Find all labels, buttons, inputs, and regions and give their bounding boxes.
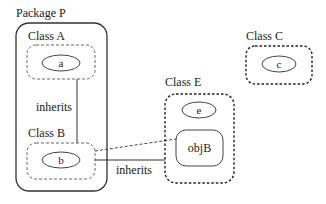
object-a-label: a (59, 57, 64, 69)
object-c-label: c (277, 58, 282, 70)
object-b-label: b (58, 154, 64, 166)
objb-label: objB (188, 141, 211, 155)
inherits-label-b-e: inherits (116, 163, 152, 177)
class-b-label: Class B (28, 126, 65, 140)
class-c-label: Class C (246, 29, 283, 43)
package-label: Package P (16, 6, 66, 20)
class-e-label: Class E (165, 75, 201, 89)
class-a-label: Class A (28, 29, 65, 43)
inherits-label-a-b: inherits (36, 100, 72, 114)
diagram-canvas: Package P Class A a inherits Class B b i… (0, 0, 326, 204)
object-e-label: e (197, 104, 202, 116)
